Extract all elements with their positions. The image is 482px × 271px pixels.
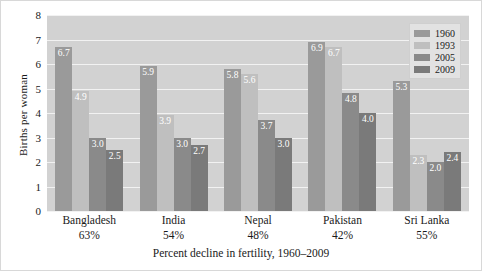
bar-value-label: 5.9 — [142, 67, 154, 77]
x-axis-category-label: Pakistan — [300, 213, 384, 228]
y-axis-tick-label: 5 — [36, 83, 42, 95]
bar: 6.9 — [308, 42, 325, 211]
bar-value-label: 5.3 — [395, 82, 407, 92]
x-axis-category-label: Sri Lanka — [385, 213, 469, 228]
bar-value-label: 2.0 — [429, 163, 441, 173]
bar-group: 5.85.63.73.0 — [216, 15, 300, 211]
y-axis-tick-label: 1 — [36, 181, 42, 193]
bar-value-label: 6.9 — [311, 43, 323, 53]
plot-area-wrapper: 012345678 6.74.93.02.55.93.93.02.75.85.6… — [47, 15, 469, 211]
bar: 3.7 — [258, 120, 275, 211]
bar: 2.5 — [106, 150, 123, 211]
legend-item[interactable]: 1960 — [414, 27, 455, 39]
bar-value-label: 6.7 — [328, 48, 340, 58]
x-axis-category-label: Bangladesh — [47, 213, 131, 228]
bar: 3.0 — [275, 138, 292, 212]
x-axis-group: Bangladesh63% — [47, 213, 131, 243]
bar: 5.9 — [140, 66, 157, 211]
bar: 2.4 — [444, 152, 461, 211]
x-axis-group: Nepal48% — [216, 213, 300, 243]
bar-value-label: 3.0 — [92, 139, 104, 149]
x-axis-group: India54% — [131, 213, 215, 243]
bar-value-label: 2.7 — [193, 146, 205, 156]
bar: 4.9 — [72, 91, 89, 211]
bar-value-label: 3.0 — [176, 139, 188, 149]
y-axis-tick-label: 0 — [36, 205, 42, 217]
legend-item-label: 2009 — [435, 64, 455, 75]
bar-value-label: 4.9 — [75, 92, 87, 102]
bar-value-label: 3.0 — [278, 139, 290, 149]
legend-swatch — [414, 42, 430, 49]
bar: 5.6 — [241, 74, 258, 211]
x-axis-labels: Bangladesh63%India54%Nepal48%Pakistan42%… — [47, 213, 469, 243]
gridline — [47, 211, 469, 212]
legend-swatch — [414, 54, 430, 61]
legend-item[interactable]: 2005 — [414, 51, 455, 63]
plot-area: 012345678 6.74.93.02.55.93.93.02.75.85.6… — [47, 15, 469, 211]
bar-group: 6.96.74.84.0 — [300, 15, 384, 211]
bar-group: 5.93.93.02.7 — [131, 15, 215, 211]
legend-item-label: 1960 — [435, 28, 455, 39]
x-axis-group: Pakistan42% — [300, 213, 384, 243]
y-axis-tick-label: 3 — [36, 132, 42, 144]
legend-item[interactable]: 2009 — [414, 63, 455, 75]
bar-value-label: 2.4 — [446, 153, 458, 163]
bar: 4.0 — [359, 113, 376, 211]
bar-value-label: 2.5 — [109, 151, 121, 161]
bar: 2.7 — [191, 145, 208, 211]
bar-value-label: 4.8 — [345, 94, 357, 104]
legend-swatch — [414, 66, 430, 73]
x-axis-percent-label: 54% — [131, 228, 215, 243]
legend: 1960199320052009 — [409, 23, 461, 79]
y-axis-tick-label: 7 — [36, 34, 42, 46]
x-axis-percent-label: 63% — [47, 228, 131, 243]
legend-item[interactable]: 1993 — [414, 39, 455, 51]
y-axis-tick-label: 2 — [36, 156, 42, 168]
bar-value-label: 5.8 — [227, 70, 239, 80]
bar: 5.8 — [224, 69, 241, 211]
x-axis-category-label: Nepal — [216, 213, 300, 228]
bar-value-label: 3.9 — [159, 116, 171, 126]
x-axis-percent-label: 48% — [216, 228, 300, 243]
bar: 6.7 — [325, 47, 342, 211]
x-axis-title: Percent decline in fertility, 1960–2009 — [1, 247, 481, 259]
y-axis-tick-label: 4 — [36, 107, 42, 119]
bar-value-label: 4.0 — [362, 114, 374, 124]
bar: 3.0 — [174, 138, 191, 212]
bar: 3.0 — [89, 138, 106, 212]
x-axis-percent-label: 55% — [385, 228, 469, 243]
bar: 4.8 — [342, 93, 359, 211]
bar: 2.3 — [410, 155, 427, 211]
bar: 5.3 — [393, 81, 410, 211]
bar-value-label: 6.7 — [58, 48, 70, 58]
bar-groups: 6.74.93.02.55.93.93.02.75.85.63.73.06.96… — [47, 15, 469, 211]
y-axis-tick-label: 6 — [36, 58, 42, 70]
legend-item-label: 2005 — [435, 52, 455, 63]
bar-value-label: 5.6 — [244, 75, 256, 85]
y-axis-tick-label: 8 — [36, 9, 42, 21]
bar-value-label: 2.3 — [412, 156, 424, 166]
bar-group: 6.74.93.02.5 — [47, 15, 131, 211]
figure-container: Births per woman 012345678 6.74.93.02.55… — [0, 0, 482, 271]
y-axis-title: Births per woman — [17, 35, 29, 195]
bar: 6.7 — [55, 47, 72, 211]
legend-swatch — [414, 30, 430, 37]
legend-item-label: 1993 — [435, 40, 455, 51]
bar-value-label: 3.7 — [261, 121, 273, 131]
bar: 2.0 — [427, 162, 444, 211]
x-axis-percent-label: 42% — [300, 228, 384, 243]
x-axis-category-label: India — [131, 213, 215, 228]
bar: 3.9 — [157, 115, 174, 211]
x-axis-group: Sri Lanka55% — [385, 213, 469, 243]
